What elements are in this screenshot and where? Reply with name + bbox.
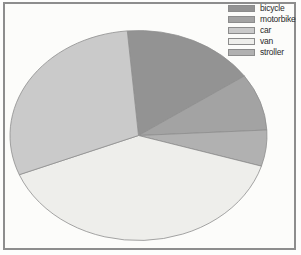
legend: bicycle motorbike car van stroller: [228, 3, 296, 58]
legend-label-bicycle: bicycle: [260, 3, 285, 14]
legend-swatch-car: [228, 27, 255, 34]
legend-item-motorbike: motorbike: [228, 14, 296, 25]
legend-swatch-van: [228, 38, 255, 45]
chart-panel: bicycle motorbike car van stroller: [0, 0, 301, 255]
legend-label-car: car: [260, 25, 271, 36]
legend-item-stroller: stroller: [228, 47, 296, 58]
legend-label-stroller: stroller: [260, 47, 284, 58]
legend-swatch-motorbike: [228, 16, 255, 23]
legend-label-van: van: [260, 36, 273, 47]
legend-item-car: car: [228, 25, 296, 36]
legend-swatch-bicycle: [228, 5, 255, 12]
legend-label-motorbike: motorbike: [260, 14, 296, 25]
legend-item-van: van: [228, 36, 296, 47]
legend-swatch-stroller: [228, 49, 255, 56]
legend-item-bicycle: bicycle: [228, 3, 296, 14]
